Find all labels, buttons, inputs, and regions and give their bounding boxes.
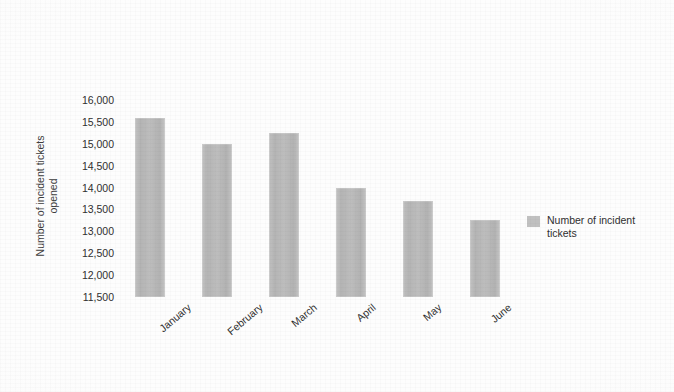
y-axis-tick-labels: 16,00015,50015,00014,50014,00013,50013,0…: [66, 0, 114, 392]
x-axis-tick-label: January: [157, 301, 193, 334]
y-axis-tick-label: 15,000: [66, 138, 114, 149]
bar: [202, 144, 232, 297]
y-axis-tick-label: 13,000: [66, 226, 114, 237]
legend-swatch-icon: [527, 216, 540, 227]
legend-label-line-1: Number of incident: [547, 214, 635, 227]
chart-page: Number of incident tickets opened 16,000…: [0, 0, 674, 392]
x-axis-tick-labels: JanuaryFebruaryMarchAprilMayJune: [122, 301, 522, 361]
y-axis-tick-label: 11,500: [66, 292, 114, 303]
y-axis-title-line-2: opened: [47, 178, 60, 213]
x-axis-tick-label: April: [354, 301, 378, 324]
y-axis-tick-label: 13,500: [66, 204, 114, 215]
x-axis-tick-label: February: [225, 301, 265, 337]
plot-area: [122, 100, 522, 297]
legend: Number of incident tickets: [527, 214, 635, 240]
y-axis-title: Number of incident tickets opened: [30, 96, 64, 296]
bar: [470, 220, 500, 297]
y-axis-tick-label: 12,500: [66, 248, 114, 259]
x-axis-tick-label: June: [488, 301, 513, 325]
x-axis-tick-label: March: [289, 301, 319, 329]
y-axis-tick-label: 16,000: [66, 95, 114, 106]
y-axis-tick-label: 15,500: [66, 116, 114, 127]
y-axis-tick-label: 14,000: [66, 182, 114, 193]
legend-label: Number of incident tickets: [547, 214, 635, 240]
bar: [336, 188, 366, 297]
bar: [403, 201, 433, 297]
y-axis-title-line-1: Number of incident tickets: [34, 136, 47, 257]
legend-label-line-2: tickets: [547, 227, 635, 240]
y-axis-tick-label: 14,500: [66, 160, 114, 171]
x-axis-tick-label: May: [421, 301, 444, 323]
y-axis-tick-label: 12,000: [66, 270, 114, 281]
bar: [269, 133, 299, 297]
bar: [135, 118, 165, 297]
